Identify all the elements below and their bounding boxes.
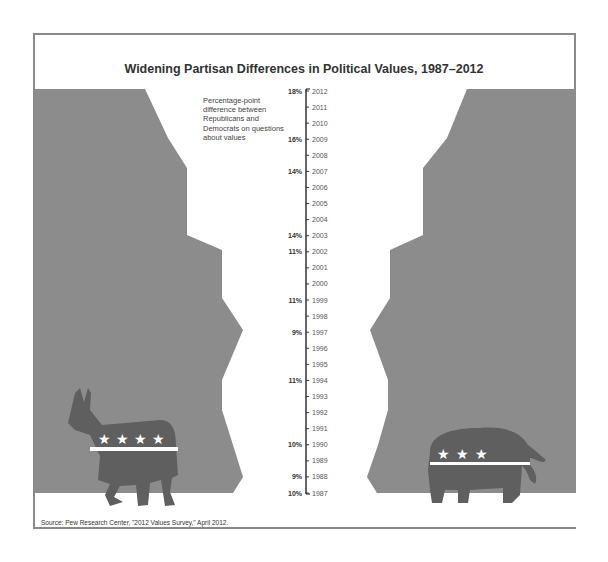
year-label: 2002 bbox=[312, 248, 328, 255]
year-label: 2012 bbox=[312, 88, 328, 95]
svg-text:★: ★ bbox=[134, 431, 147, 447]
svg-text:★: ★ bbox=[475, 446, 488, 462]
value-label: 10% bbox=[288, 490, 303, 497]
value-label: 14% bbox=[288, 168, 303, 175]
year-label: 1994 bbox=[312, 377, 328, 384]
value-label: 9% bbox=[292, 473, 303, 480]
year-label: 1988 bbox=[312, 473, 328, 480]
value-label: 11% bbox=[288, 297, 302, 304]
year-label: 2011 bbox=[312, 104, 327, 111]
value-label: 10% bbox=[288, 441, 303, 448]
year-label: 1998 bbox=[312, 313, 328, 320]
year-label: 1991 bbox=[312, 425, 328, 432]
svg-text:★: ★ bbox=[437, 446, 450, 462]
svg-text:★: ★ bbox=[116, 431, 129, 447]
svg-text:★: ★ bbox=[152, 431, 165, 447]
year-label: 1996 bbox=[312, 345, 328, 352]
year-label: 2009 bbox=[312, 136, 328, 143]
year-label: 1989 bbox=[312, 457, 328, 464]
year-label: 1987 bbox=[312, 490, 328, 497]
year-label: 2003 bbox=[312, 232, 328, 239]
value-label: 11% bbox=[288, 377, 302, 384]
value-label: 18% bbox=[288, 88, 303, 95]
year-label: 1999 bbox=[312, 297, 328, 304]
value-label: 14% bbox=[288, 232, 303, 239]
value-label: 11% bbox=[288, 248, 302, 255]
year-label: 2004 bbox=[312, 216, 328, 223]
svg-text:★: ★ bbox=[456, 446, 469, 462]
year-label: 1990 bbox=[312, 441, 328, 448]
year-label: 2006 bbox=[312, 184, 328, 191]
chart-annotation: Percentage-point difference between Repu… bbox=[203, 96, 287, 142]
chart-plot: ★ ★ ★ ★ ★ ★ ★ 20122011201020092008200720… bbox=[0, 0, 608, 562]
year-label: 2010 bbox=[312, 120, 328, 127]
source-citation: Source: Pew Research Center, "2012 Value… bbox=[41, 519, 228, 526]
value-label: 9% bbox=[292, 329, 303, 336]
year-label: 2000 bbox=[312, 280, 328, 287]
svg-text:★: ★ bbox=[98, 431, 111, 447]
value-label: 16% bbox=[288, 136, 303, 143]
elephant-stars: ★ ★ ★ bbox=[437, 446, 488, 462]
year-label: 1995 bbox=[312, 361, 328, 368]
year-label: 1992 bbox=[312, 409, 328, 416]
year-label: 2001 bbox=[312, 264, 328, 271]
year-label: 2008 bbox=[312, 152, 328, 159]
year-label: 2007 bbox=[312, 168, 328, 175]
timeline-axis: 2012201120102009200820072006200520042003… bbox=[288, 88, 328, 497]
year-label: 1997 bbox=[312, 329, 328, 336]
year-label: 2005 bbox=[312, 200, 328, 207]
year-label: 1993 bbox=[312, 393, 328, 400]
